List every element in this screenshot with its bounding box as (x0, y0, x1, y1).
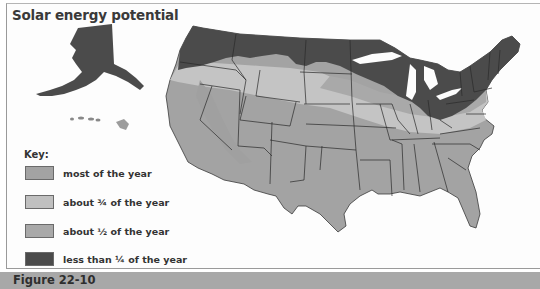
hawaii-region (70, 117, 129, 131)
key-item-half: about ½ of the year (25, 224, 169, 238)
key-text-three-quarters: about ¾ of the year (63, 197, 169, 208)
key-text-half: about ½ of the year (63, 226, 169, 237)
continental-us (166, 26, 520, 232)
swatch-quarter (25, 252, 54, 266)
key-text-quarter: less than ¼ of the year (63, 254, 187, 265)
alaska-region (36, 24, 144, 96)
key-item-quarter: less than ¼ of the year (25, 252, 187, 266)
swatch-most (25, 166, 54, 180)
caption-bar: Figure 22-10 (0, 272, 540, 289)
swatch-half (25, 224, 54, 238)
figure-caption: Figure 22-10 (13, 273, 95, 287)
key-item-three-quarters: about ¾ of the year (25, 195, 169, 209)
key-text-most: most of the year (63, 168, 152, 179)
key-item-most: most of the year (25, 166, 152, 180)
key-label: Key: (24, 149, 49, 160)
swatch-three-quarters (25, 195, 54, 209)
